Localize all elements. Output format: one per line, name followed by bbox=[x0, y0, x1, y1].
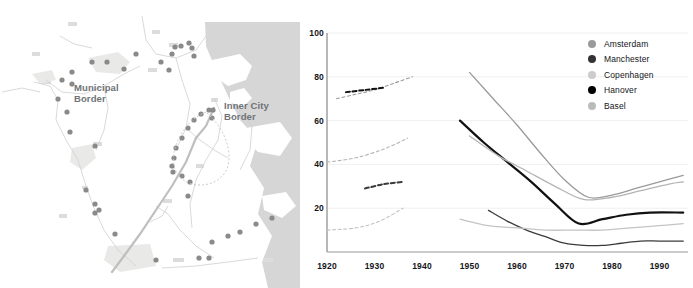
legend-dot-icon-amsterdam bbox=[588, 40, 596, 48]
series-line-amsterdam-historic bbox=[337, 77, 413, 99]
legend-label: Hanover bbox=[604, 85, 637, 95]
x-tick-1950: 1950 bbox=[453, 261, 487, 271]
legend-item-manchester[interactable]: Manchester bbox=[588, 52, 654, 68]
series-line-manchester-historic bbox=[365, 182, 403, 189]
legend-label: Basel bbox=[604, 101, 626, 111]
legend-item-amsterdam[interactable]: Amsterdam bbox=[588, 36, 654, 52]
series-line-copenhagen-modern bbox=[460, 219, 683, 230]
x-tick-1970: 1970 bbox=[548, 261, 582, 271]
chart-panel: 10080604020 1920193019401950196019701980… bbox=[300, 0, 693, 288]
series-line-basel-historic bbox=[327, 138, 408, 162]
y-tick-20: 20 bbox=[300, 203, 324, 213]
x-tick-1960: 1960 bbox=[500, 261, 534, 271]
map-graphic bbox=[0, 0, 300, 288]
y-tick-60: 60 bbox=[300, 116, 324, 126]
figure-root: Municipal Border Inner City Border 10080… bbox=[0, 0, 693, 288]
legend-dot-icon-hanover bbox=[588, 86, 596, 94]
y-tick-80: 80 bbox=[300, 72, 324, 82]
legend-item-hanover[interactable]: Hanover bbox=[588, 83, 654, 99]
legend-item-basel[interactable]: Basel bbox=[588, 98, 654, 114]
legend-dot-icon-copenhagen bbox=[588, 71, 596, 79]
y-tick-40: 40 bbox=[300, 159, 324, 169]
legend-dot-icon-basel bbox=[588, 102, 596, 110]
legend-label: Copenhagen bbox=[604, 70, 654, 80]
chart-legend: AmsterdamManchesterCopenhagenHanoverBase… bbox=[588, 36, 654, 114]
series-line-copenhagen-historic bbox=[327, 208, 403, 230]
series-line-hanover-historic bbox=[346, 88, 384, 92]
map-panel: Municipal Border Inner City Border bbox=[0, 0, 300, 288]
legend-item-copenhagen[interactable]: Copenhagen bbox=[588, 67, 654, 83]
legend-label: Manchester bbox=[604, 54, 649, 64]
legend-label: Amsterdam bbox=[604, 39, 648, 49]
x-tick-1940: 1940 bbox=[405, 261, 439, 271]
x-tick-1920: 1920 bbox=[310, 261, 344, 271]
x-tick-1930: 1930 bbox=[358, 261, 392, 271]
x-tick-1990: 1990 bbox=[643, 261, 677, 271]
legend-dot-icon-manchester bbox=[588, 55, 596, 63]
x-tick-1980: 1980 bbox=[595, 261, 629, 271]
y-tick-100: 100 bbox=[300, 28, 324, 38]
